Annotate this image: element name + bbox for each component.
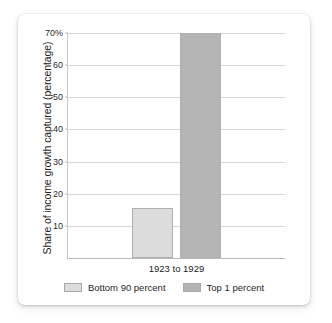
gridline [68, 226, 285, 227]
plot-area: 70%605040302010 [68, 33, 285, 258]
x-axis-category-label: 1923 to 1929 [68, 263, 285, 274]
y-axis-tick-label: 40 [53, 124, 63, 134]
legend-item[interactable]: Bottom 90 percent [64, 282, 166, 293]
bar-top-1-percent[interactable] [180, 33, 221, 258]
y-axis-tick-label: 30 [53, 157, 63, 167]
y-axis-tick-label: 20 [53, 189, 63, 199]
gridline [68, 65, 285, 66]
y-axis-tick-label: 10 [53, 221, 63, 231]
y-axis-title: Share of income growth captured (percent… [41, 33, 53, 263]
legend-item[interactable]: Top 1 percent [183, 282, 265, 293]
gridline [68, 129, 285, 130]
bar-chart: Share of income growth captured (percent… [18, 14, 310, 305]
x-axis-line [67, 258, 285, 259]
chart-legend: Bottom 90 percentTop 1 percent [18, 282, 310, 293]
gridline [68, 162, 285, 163]
y-axis-line [67, 33, 68, 258]
figure-card: Share of income growth captured (percent… [18, 14, 310, 305]
gridline [68, 33, 285, 34]
y-axis-tick-label: 70% [45, 28, 63, 38]
y-axis-tick-label: 60 [53, 60, 63, 70]
legend-swatch-icon [183, 283, 201, 292]
gridline [68, 194, 285, 195]
legend-swatch-icon [64, 283, 82, 292]
plot-background [68, 33, 285, 258]
legend-label: Top 1 percent [207, 282, 265, 293]
gridline [68, 97, 285, 98]
y-axis-tick-label: 50 [53, 92, 63, 102]
bar-bottom-90-percent[interactable] [132, 208, 173, 258]
legend-label: Bottom 90 percent [88, 282, 166, 293]
